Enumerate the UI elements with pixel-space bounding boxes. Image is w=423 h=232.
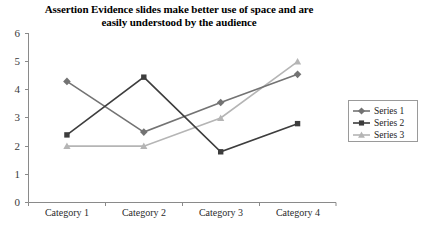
series-layer [63,58,301,154]
plot-area: 6 5 4 3 2 1 0 Category 1 Category 2 Cate… [0,0,423,232]
x-label-category-3: Category 3 [199,207,243,218]
chart-container: Assertion Evidence slides make better us… [0,0,423,232]
x-label-category-1: Category 1 [45,207,89,218]
y-tick-label-1: 1 [15,168,21,180]
y-axis-ticks [25,34,29,203]
x-label-category-4: Category 4 [276,207,320,218]
y-tick-label-2: 2 [15,140,21,152]
data-point [217,99,225,107]
y-tick-label-6: 6 [15,27,21,39]
data-point [64,132,69,137]
series-line-1 [67,74,298,132]
legend-entries: Series 1Series 2Series 3 [353,106,405,140]
x-label-category-2: Category 2 [122,207,166,218]
y-tick-label-5: 5 [15,55,21,67]
legend-label-3: Series 3 [374,130,405,140]
x-axis-ticks [29,203,337,207]
x-axis-category-labels: Category 1 Category 2 Category 3 Categor… [45,207,320,218]
data-point [294,58,301,64]
y-tick-label-3: 3 [15,111,21,123]
legend-marker-2 [359,120,364,125]
data-point [294,71,302,79]
data-point [218,149,223,154]
y-tick-label-4: 4 [15,83,21,95]
series-line-2 [67,77,298,152]
data-point [295,121,300,126]
y-axis-tick-labels: 6 5 4 3 2 1 0 [15,27,21,208]
y-tick-label-0: 0 [15,196,21,208]
legend: Series 1Series 2Series 3 [349,101,418,142]
data-point [141,74,146,79]
series-1 [63,71,301,136]
legend-label-1: Series 1 [374,106,405,116]
legend-label-2: Series 2 [374,118,405,128]
